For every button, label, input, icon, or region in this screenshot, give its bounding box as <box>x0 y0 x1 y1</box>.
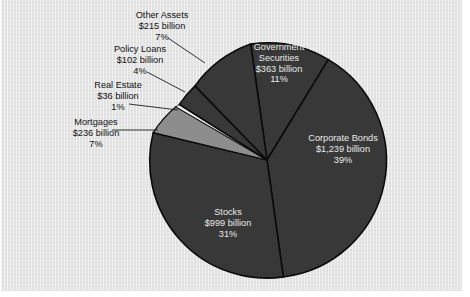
pie-label-policy-loans-percent: 4% <box>82 66 198 77</box>
pie-label-other-assets: Other Assets $215 billion 7% <box>104 10 220 42</box>
pie-label-real-estate-percent: 1% <box>60 102 176 113</box>
pie-label-corporate-bonds-name: Corporate Bonds <box>284 133 402 144</box>
pie-label-mortgages-value: $236 billion <box>38 128 154 139</box>
pie-label-stocks-value: $999 billion <box>178 218 278 229</box>
pie-label-policy-loans-name: Policy Loans <box>82 44 198 55</box>
pie-chart-figure: Other Assets $215 billion 7% Policy Loan… <box>0 0 470 297</box>
pie-label-policy-loans: Policy Loans $102 billion 4% <box>82 44 198 76</box>
pie-label-stocks-name: Stocks <box>178 207 278 218</box>
pie-label-mortgages: Mortgages $236 billion 7% <box>38 117 154 149</box>
pie-label-government-securities-name2: Securities <box>229 53 329 64</box>
pie-label-other-assets-percent: 7% <box>104 32 220 43</box>
pie-label-government-securities-percent: 11% <box>229 74 329 85</box>
pie-label-policy-loans-value: $102 billion <box>82 55 198 66</box>
pie-label-other-assets-name: Other Assets <box>104 10 220 21</box>
pie-label-government-securities: Government Securities $363 billion 11% <box>229 42 329 85</box>
pie-label-corporate-bonds-value: $1,239 billion <box>284 144 402 155</box>
pie-label-government-securities-value: $363 billion <box>229 64 329 75</box>
pie-label-real-estate-value: $36 billion <box>60 91 176 102</box>
pie-label-mortgages-percent: 7% <box>38 139 154 150</box>
pie-label-other-assets-value: $215 billion <box>104 21 220 32</box>
pie-label-real-estate-name: Real Estate <box>60 80 176 91</box>
pie-label-stocks: Stocks $999 billion 31% <box>178 207 278 239</box>
pie-label-stocks-percent: 31% <box>178 229 278 240</box>
pie-label-corporate-bonds-percent: 39% <box>284 155 402 166</box>
pie-label-corporate-bonds: Corporate Bonds $1,239 billion 39% <box>284 133 402 165</box>
pie-label-mortgages-name: Mortgages <box>38 117 154 128</box>
pie-label-government-securities-name: Government <box>229 42 329 53</box>
pie-label-real-estate: Real Estate $36 billion 1% <box>60 80 176 112</box>
